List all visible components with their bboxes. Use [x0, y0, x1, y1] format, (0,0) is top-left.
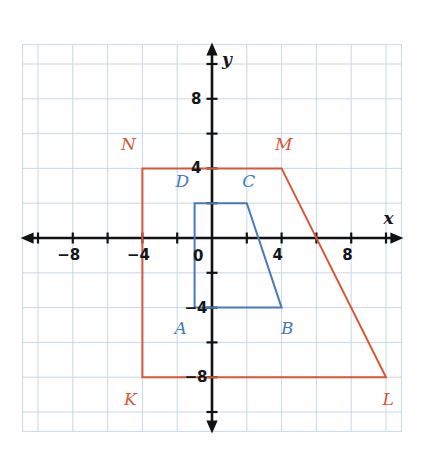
x-tick-label: −8 — [57, 246, 80, 264]
x-tick-label: 4 — [273, 246, 283, 264]
vertex-label-A: A — [175, 318, 187, 338]
y-tick-label: 4 — [191, 159, 201, 177]
x-tick-label: −4 — [127, 246, 150, 264]
vertex-label-M: M — [275, 134, 292, 154]
vertex-label-B: B — [281, 318, 294, 338]
vertex-label-K: K — [124, 389, 137, 409]
vertex-label-C: C — [242, 171, 255, 191]
vertex-label-D: D — [176, 171, 190, 191]
y-tick-label: 8 — [191, 90, 201, 108]
vertex-label-L: L — [383, 389, 394, 409]
x-axis-name: x — [383, 208, 393, 228]
x-tick-label: 8 — [342, 246, 352, 264]
coordinate-plane-canvas — [0, 0, 422, 463]
coordinate-plane-figure: −8−44884−4−80xyABCDKLMN — [0, 0, 422, 463]
y-tick-label: −4 — [185, 299, 208, 317]
origin-label: 0 — [193, 247, 203, 265]
vertex-label-N: N — [121, 134, 136, 154]
y-tick-label: −8 — [185, 368, 208, 386]
y-axis-name: y — [222, 49, 232, 69]
